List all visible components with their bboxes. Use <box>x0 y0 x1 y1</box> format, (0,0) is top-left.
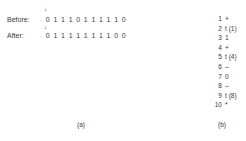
bit: 1 <box>59 32 67 39</box>
item-number: 6 <box>213 62 222 72</box>
bit: 1 <box>74 32 82 39</box>
before-row: Before: 0 1 1 1 0 1 1 1 1 1 0 <box>7 16 128 23</box>
instruction-list: 1+ 2t (1) 31 4+ 5t (4) 6– 70 8– 9t (8) 1… <box>213 14 237 110</box>
list-item: 70 <box>213 72 237 82</box>
bit: 1 <box>97 16 105 23</box>
list-item: 2t (1) <box>213 24 237 34</box>
pointer-arrow-icon: ↓ <box>44 6 47 12</box>
item-number: 2 <box>213 24 222 34</box>
bit: 0 <box>112 32 120 39</box>
item-number: 9 <box>213 91 222 101</box>
item-text: + <box>225 14 229 24</box>
item-text: 1 <box>225 33 229 43</box>
list-item: 31 <box>213 33 237 43</box>
caption-a: (a) <box>77 121 85 128</box>
item-number: 10 <box>213 100 222 110</box>
bit: 1 <box>105 32 113 39</box>
item-number: 3 <box>213 33 222 43</box>
item-text: – <box>225 81 229 91</box>
item-number: 1 <box>213 14 222 24</box>
bit: 1 <box>112 16 120 23</box>
caption-b: (b) <box>218 121 226 128</box>
item-text: t (8) <box>225 91 237 101</box>
bit: 1 <box>82 16 90 23</box>
bit: 1 <box>90 16 98 23</box>
bit: 1 <box>67 32 75 39</box>
bit: 1 <box>97 32 105 39</box>
item-text: + <box>225 43 229 53</box>
before-label: Before: <box>7 16 44 23</box>
bit: 1 <box>67 16 75 23</box>
item-text: t (1) <box>225 24 237 34</box>
after-bits: 0 1 1 1 1 1 1 1 1 0 0 <box>44 32 128 39</box>
list-item: 6– <box>213 62 237 72</box>
before-bits: 0 1 1 1 0 1 1 1 1 1 0 <box>44 16 128 23</box>
item-text: – <box>225 62 229 72</box>
bit: 0 <box>120 16 128 23</box>
list-item: 9t (8) <box>213 91 237 101</box>
item-number: 8 <box>213 81 222 91</box>
item-text: 0 <box>225 72 229 82</box>
list-item: 10* <box>213 100 237 110</box>
item-text: * <box>225 100 228 110</box>
bit: 1 <box>59 16 67 23</box>
item-number: 7 <box>213 72 222 82</box>
after-row: After: 0 1 1 1 1 1 1 1 1 0 0 <box>7 32 128 39</box>
list-item: 5t (4) <box>213 52 237 62</box>
bit: 0 <box>44 16 52 23</box>
bit: 0 <box>74 16 82 23</box>
list-item: 4+ <box>213 43 237 53</box>
pointer-arrow-icon: ↓ <box>44 24 47 30</box>
after-label: After: <box>7 32 44 39</box>
bit: 0 <box>120 32 128 39</box>
bit: 1 <box>52 32 60 39</box>
item-text: t (4) <box>225 52 237 62</box>
item-number: 5 <box>213 52 222 62</box>
bit: 1 <box>82 32 90 39</box>
bit: 1 <box>90 32 98 39</box>
list-item: 1+ <box>213 14 237 24</box>
bit: 0 <box>44 32 52 39</box>
item-number: 4 <box>213 43 222 53</box>
bit: 1 <box>52 16 60 23</box>
list-item: 8– <box>213 81 237 91</box>
bit: 1 <box>105 16 113 23</box>
